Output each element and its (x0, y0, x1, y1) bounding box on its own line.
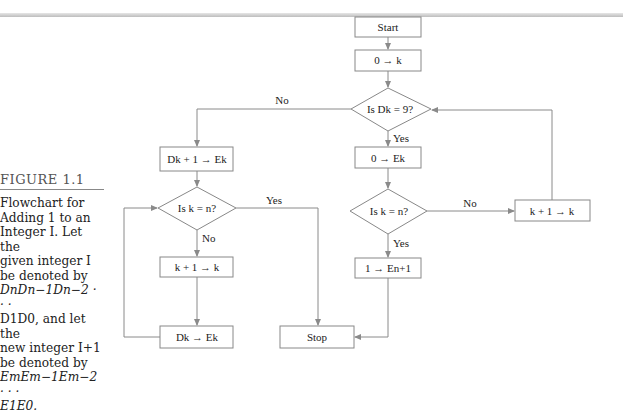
decision-left-k-equals-n: Is k = n? (158, 187, 236, 230)
zero-ek-node: 0 → Ek (355, 147, 421, 168)
caption-line: E1E0. (0, 399, 104, 414)
edge-label-no: No (275, 94, 289, 106)
copy-digit-label: Dk → Ek (176, 331, 219, 343)
copy-digit-node: Dk → Ek (160, 326, 233, 348)
decision-dk-is-9: Is Dk = 9? (351, 88, 431, 131)
edge-label-yes: Yes (393, 237, 409, 249)
stop-label: Stop (307, 331, 328, 343)
decision-right-k-equals-n: Is k = n? (350, 189, 427, 234)
init-k-node: 0 → k (355, 50, 421, 71)
edge-label-no: No (202, 232, 216, 244)
increment-k-left-node: k + 1 → k (160, 257, 233, 277)
edge-label-no: No (463, 197, 477, 209)
increment-k-right-label: k + 1 → k (530, 205, 575, 217)
edge-label-yes: Yes (266, 194, 282, 206)
stop-node: Stop (280, 326, 354, 348)
edge-label-yes: Yes (393, 132, 409, 144)
increment-digit-node: Dk + 1 → Ek (160, 147, 233, 171)
caption-line: EmEm−1Em−2 · · · (0, 370, 104, 399)
set-carry-label: 1 → En+1 (365, 262, 411, 274)
init-k-label: 0 → k (374, 54, 402, 66)
decision-right-label: Is k = n? (370, 205, 408, 217)
decision-dk-is-9-label: Is Dk = 9? (367, 103, 413, 115)
start-label: Start (378, 21, 399, 33)
increment-k-right-node: k + 1 → k (515, 200, 590, 221)
connectors (124, 37, 552, 337)
increment-k-left-label: k + 1 → k (175, 261, 220, 273)
zero-ek-label: 0 → Ek (371, 152, 406, 164)
decision-left-label: Is k = n? (178, 202, 216, 214)
start-node: Start (355, 17, 421, 37)
set-carry-node: 1 → En+1 (355, 258, 421, 278)
increment-digit-label: Dk + 1 → Ek (167, 153, 227, 165)
